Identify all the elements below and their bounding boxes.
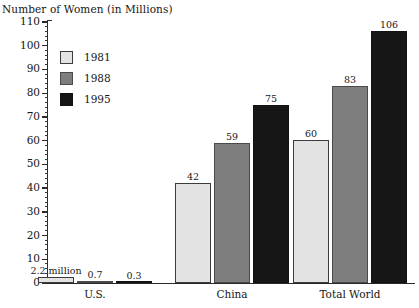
x-category-label: Total World (290, 288, 410, 300)
bar (214, 143, 250, 283)
x-category-label: U.S. (35, 288, 155, 300)
y-tick-label: 20 (4, 229, 40, 241)
y-tick-minor (45, 112, 49, 113)
y-tick-minor (45, 40, 49, 41)
y-tick-minor (45, 206, 49, 207)
y-tick-minor (45, 131, 49, 132)
y-tick-minor (45, 230, 49, 231)
y-tick-minor (45, 55, 49, 56)
y-tick-major (42, 259, 49, 260)
y-tick-minor (45, 121, 49, 122)
y-tick-minor (45, 88, 49, 89)
y-tick-minor (45, 159, 49, 160)
bar (175, 183, 211, 283)
y-tick-label: 0 (4, 276, 40, 288)
x-axis-line (47, 283, 415, 284)
legend-label-1995: 1995 (84, 93, 111, 105)
y-tick-minor (45, 135, 49, 136)
y-tick-minor (45, 102, 49, 103)
y-tick-minor (45, 244, 49, 245)
bar (77, 281, 113, 283)
y-tick-label: 50 (4, 157, 40, 169)
y-tick-minor (45, 183, 49, 184)
y-tick-minor (45, 31, 49, 32)
x-category-label: China (172, 288, 292, 300)
y-tick-label: 70 (4, 110, 40, 122)
bar (332, 86, 368, 283)
y-tick-minor (45, 26, 49, 27)
y-tick-label: 90 (4, 62, 40, 74)
y-tick-minor (45, 240, 49, 241)
y-tick-minor (45, 225, 49, 226)
y-tick-major (42, 116, 49, 117)
legend-label-1981: 1981 (84, 51, 111, 63)
bar (116, 281, 152, 283)
y-tick-minor (45, 154, 49, 155)
bar (371, 31, 407, 283)
y-tick-major (42, 187, 49, 188)
bar-value-label: 75 (233, 93, 309, 104)
y-tick-major (42, 93, 49, 94)
y-tick-label: 100 (4, 39, 40, 51)
y-tick-minor (45, 202, 49, 203)
y-tick-minor (45, 197, 49, 198)
y-tick-label: 40 (4, 181, 40, 193)
y-tick-minor (45, 150, 49, 151)
y-tick-minor (45, 173, 49, 174)
plot-area: 0102030405060708090100110 2.2 million0.7… (0, 0, 419, 308)
y-tick-minor (45, 254, 49, 255)
y-tick-minor (45, 216, 49, 217)
y-tick-label: 10 (4, 252, 40, 264)
y-tick-minor (45, 169, 49, 170)
y-tick-major (42, 211, 49, 212)
y-tick-minor (45, 126, 49, 127)
y-tick-minor (45, 36, 49, 37)
y-tick-minor (45, 83, 49, 84)
bar (293, 140, 329, 282)
y-tick-minor (45, 74, 49, 75)
y-tick-minor (45, 64, 49, 65)
y-tick-major (42, 21, 49, 22)
y-tick-minor (45, 145, 49, 146)
y-tick-minor (45, 50, 49, 51)
y-tick-label: 30 (4, 205, 40, 217)
y-tick-minor (45, 59, 49, 60)
bar-value-label: 0.3 (96, 270, 172, 281)
y-tick-major (42, 235, 49, 236)
bar-chart: Number of Women (in Millions) 0102030405… (0, 0, 419, 308)
bar-value-label: 106 (351, 19, 419, 30)
y-tick-label: 60 (4, 134, 40, 146)
y-tick-major (42, 69, 49, 70)
y-tick-label: 80 (4, 86, 40, 98)
medium-gray-swatch-icon (60, 72, 73, 85)
y-tick-minor (45, 263, 49, 264)
y-tick-minor (45, 97, 49, 98)
y-tick-minor (45, 221, 49, 222)
y-tick-major (42, 140, 49, 141)
y-tick-minor (45, 249, 49, 250)
y-tick-minor (45, 107, 49, 108)
y-tick-minor (45, 78, 49, 79)
y-tick-major (42, 164, 49, 165)
y-tick-label: 110 (4, 15, 40, 27)
black-swatch-icon (60, 93, 73, 106)
legend-label-1988: 1988 (84, 72, 111, 84)
light-gray-swatch-icon (60, 51, 73, 64)
y-tick-major (42, 45, 49, 46)
y-tick-minor (45, 178, 49, 179)
y-tick-minor (45, 192, 49, 193)
